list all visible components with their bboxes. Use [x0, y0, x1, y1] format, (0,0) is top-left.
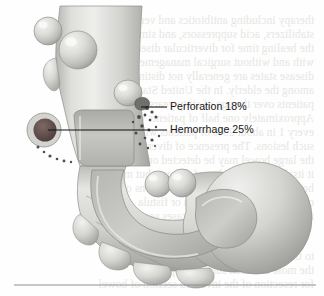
diverticulum-lower-b: [168, 169, 196, 197]
callout-label-perforation: Perforation 18%: [170, 100, 247, 112]
hemorrhage-specks: [37, 146, 73, 164]
lumen-right-chamber: [196, 189, 257, 248]
figure-root: therapy including antibiotics and very o…: [0, 0, 324, 296]
callout-label-hemorrhage: Hemorrhage 25%: [170, 123, 254, 135]
diverticulum-lower-a: [145, 171, 171, 197]
lumen-upper: [74, 110, 134, 166]
diverticulum-upper-mid: [59, 31, 97, 69]
colon-diverticula-illustration: [0, 0, 324, 296]
diverticulum-upper-left: [34, 17, 62, 45]
hemorrhage-lesion: [27, 113, 72, 163]
